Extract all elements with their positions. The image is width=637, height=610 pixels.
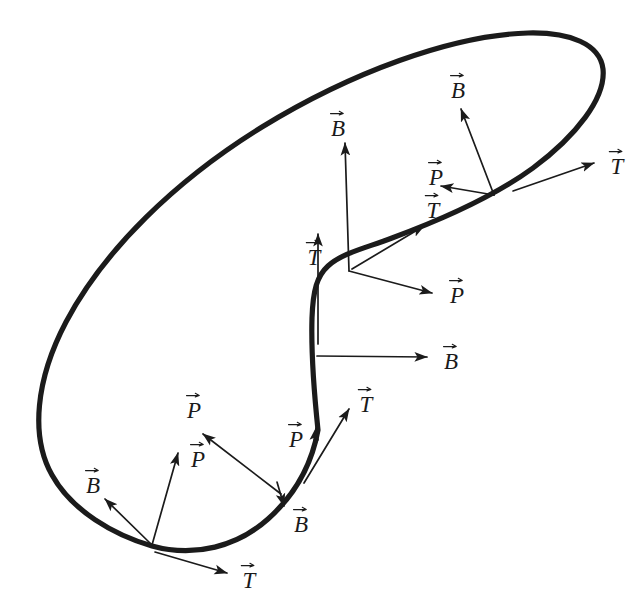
- vector-label-text: T: [611, 154, 624, 179]
- vector-overarrow-icon: [609, 147, 624, 154]
- vector-arrow-b: [317, 356, 427, 357]
- vector-arrow-t: [513, 163, 594, 191]
- vector-overarrow-icon: [306, 238, 321, 245]
- vector-label-text: T: [243, 568, 256, 593]
- vector-label-b: B: [444, 341, 458, 373]
- vector-label-t: T: [243, 560, 256, 592]
- vector-label-text: B: [86, 473, 100, 498]
- vector-label-text: P: [187, 398, 201, 423]
- vector-overarrow-icon: [428, 158, 443, 165]
- vector-label-b: B: [86, 465, 100, 497]
- vector-label-text: T: [360, 392, 373, 417]
- vector-label-p: P: [429, 157, 443, 189]
- vector-label-text: P: [450, 283, 464, 308]
- vector-label-text: P: [289, 427, 303, 452]
- vector-label-p: P: [187, 390, 201, 422]
- vector-label-t: T: [611, 146, 624, 178]
- vector-overarrow-icon: [358, 385, 373, 392]
- vector-label-text: B: [451, 78, 465, 103]
- vector-label-t: T: [360, 384, 373, 416]
- frenet-frame-figure: BTPTBTPBTPPPBBT: [0, 0, 637, 610]
- vector-overarrow-icon: [85, 466, 100, 473]
- vector-label-p: P: [450, 275, 464, 307]
- vector-overarrow-icon: [425, 191, 440, 198]
- vector-arrow-p: [441, 186, 494, 195]
- vector-arrow-b: [461, 109, 494, 195]
- vector-arrow-p: [349, 271, 432, 293]
- vector-label-b: B: [451, 70, 465, 102]
- vector-label-text: T: [308, 245, 321, 270]
- vector-overarrow-icon: [443, 342, 458, 349]
- vector-label-p: P: [289, 419, 303, 451]
- vector-overarrow-icon: [449, 276, 464, 283]
- vector-label-p: P: [191, 439, 205, 471]
- vector-overarrow-icon: [293, 505, 308, 512]
- vector-label-text: P: [191, 447, 205, 472]
- vector-overarrow-icon: [450, 71, 465, 78]
- vector-label-b: B: [294, 504, 308, 536]
- vector-overarrow-icon: [186, 391, 201, 398]
- vector-arrow-t: [304, 409, 349, 483]
- vector-label-t: T: [427, 190, 440, 222]
- vector-label-text: T: [427, 198, 440, 223]
- vector-arrow-p: [203, 434, 281, 494]
- vector-label-text: B: [294, 512, 308, 537]
- vector-arrow-t: [155, 552, 227, 573]
- vector-label-text: B: [444, 349, 458, 374]
- vector-overarrow-icon: [330, 109, 345, 116]
- vector-label-t: T: [308, 237, 321, 269]
- vector-label-b: B: [331, 108, 345, 140]
- space-curve: [39, 33, 603, 551]
- space-curve-path: [39, 33, 603, 551]
- vector-overarrow-icon: [241, 561, 256, 568]
- figure-canvas: [0, 0, 637, 610]
- vector-overarrow-icon: [190, 440, 205, 447]
- vector-label-text: P: [429, 165, 443, 190]
- vector-overarrow-icon: [288, 420, 303, 427]
- vector-label-text: B: [331, 116, 345, 141]
- vector-arrow-p: [152, 453, 178, 545]
